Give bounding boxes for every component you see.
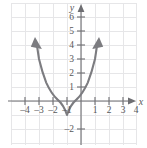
y-axis [77,4,85,145]
y-tick-label: 3 [69,54,74,64]
y-tick-label: –2 [64,124,75,134]
x-tick-label: 2 [107,105,112,115]
x-tick-label: –3 [33,105,44,115]
right-arrowhead [92,37,103,49]
y-tick-label: 4 [69,40,74,50]
y-tick-label: 6 [69,12,74,22]
x-axis-label: x [138,96,144,107]
y-tick-label: 1 [69,82,74,92]
y-tick-label: 5 [69,26,74,36]
x-tick-label: 3 [121,105,126,115]
y-axis-label: y [69,2,75,13]
x-tick-label: –1 [61,105,72,115]
coordinate-plane: –4 –3 –2 –1 1 2 3 4 –2 1 2 3 4 5 6 x y [0,0,147,148]
x-tick-label: 1 [93,105,98,115]
x-tick-label: –2 [47,105,58,115]
graph-figure: –4 –3 –2 –1 1 2 3 4 –2 1 2 3 4 5 6 x y [0,0,147,148]
y-tick-label: 2 [69,68,74,78]
x-tick-labels: –4 –3 –2 –1 1 2 3 4 [19,105,138,115]
x-tick-label: –4 [19,105,30,115]
left-arrowhead [31,37,42,49]
